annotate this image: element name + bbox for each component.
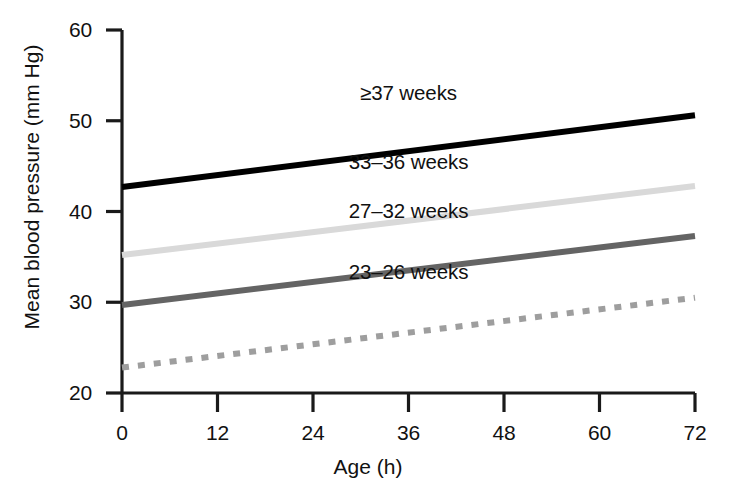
x-axis-ticks bbox=[122, 393, 695, 412]
y-axis-title: Mean blood pressure (mm Hg) bbox=[20, 45, 43, 330]
y-axis-title-wrapper: Mean blood pressure (mm Hg) bbox=[20, 0, 44, 387]
series-label-extremely-preterm: 23–26 weeks bbox=[349, 260, 469, 284]
series-line-extremely-preterm bbox=[122, 298, 695, 368]
x-tick-label-72: 72 bbox=[684, 421, 707, 445]
series-label-very-preterm: 27–32 weeks bbox=[349, 199, 469, 223]
series-label-late-preterm: 33–36 weeks bbox=[349, 150, 469, 174]
x-axis-title: Age (h) bbox=[0, 455, 736, 479]
x-tick-label-36: 36 bbox=[397, 421, 420, 445]
x-tick-label-12: 12 bbox=[206, 421, 229, 445]
x-tick-label-48: 48 bbox=[493, 421, 516, 445]
x-tick-label-0: 0 bbox=[116, 421, 127, 445]
y-tick-label-20: 20 bbox=[46, 381, 92, 405]
y-tick-label-50: 50 bbox=[46, 109, 92, 133]
x-tick-label-24: 24 bbox=[302, 421, 325, 445]
chart-plot-area bbox=[0, 0, 736, 502]
series-label-term: ≥37 weeks bbox=[360, 81, 457, 105]
x-tick-label-60: 60 bbox=[588, 421, 611, 445]
y-tick-label-30: 30 bbox=[46, 290, 92, 314]
chart-figure: 60 50 40 30 20 0 12 24 36 48 60 72 Age (… bbox=[0, 0, 736, 502]
y-axis-ticks bbox=[106, 30, 122, 393]
y-tick-label-40: 40 bbox=[46, 200, 92, 224]
y-tick-label-60: 60 bbox=[46, 18, 92, 42]
